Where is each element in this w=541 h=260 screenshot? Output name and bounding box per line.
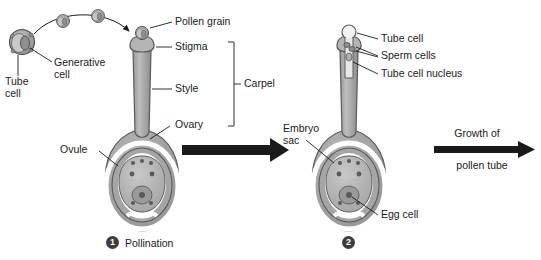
label-tube-cell-nucleus: Tube cell nucleus	[381, 68, 462, 80]
tube-cell-nucleus-2	[346, 53, 352, 61]
carpel-bracket	[228, 42, 234, 126]
style-1	[133, 50, 151, 137]
label-embryo-sac: Embryosac	[283, 123, 319, 146]
label-tube-cell-left: Tubecell	[5, 76, 29, 99]
pollen-grain-in-flight-2	[92, 10, 105, 23]
growth-arrow-line2: pollen tube	[436, 160, 528, 172]
growth-arrow	[434, 141, 535, 158]
pollen-grain-on-stigma-1	[136, 27, 149, 40]
label-tube-cell: Tube cell	[381, 33, 423, 45]
growth-arrow-line1: Growth of	[436, 128, 518, 140]
sperm-cell-b	[349, 47, 355, 52]
label-carpel: Carpel	[244, 78, 275, 90]
step-badge-1: 1	[106, 236, 119, 249]
step-badge-2: 2	[342, 236, 355, 249]
pollen-grain-free	[10, 30, 35, 55]
label-pollen-grain: Pollen grain	[175, 16, 230, 28]
leader-pollen-grain	[150, 22, 172, 28]
diagram-canvas: Tubecell Generativecell Pollen grain Sti…	[0, 0, 541, 260]
pollination-trajectory-arc	[34, 15, 129, 34]
label-ovary: Ovary	[175, 119, 203, 131]
label-ovule: Ovule	[60, 144, 87, 156]
leader-generative-cell	[30, 48, 52, 62]
label-style: Style	[175, 83, 198, 95]
sperm-cell-a	[344, 43, 350, 48]
pollen-grain-germinated	[342, 25, 356, 39]
carpel-stage-1	[105, 27, 178, 232]
pollen-grain-in-flight-1	[57, 15, 70, 28]
label-sperm-cells: Sperm cells	[381, 50, 436, 62]
leader-tube-cell	[357, 33, 378, 39]
label-stigma: Stigma	[175, 41, 208, 53]
label-egg-cell: Egg cell	[381, 209, 418, 221]
transition-arrow	[182, 138, 289, 162]
label-generative-cell: Generativecell	[54, 57, 105, 80]
step-caption-1: Pollination	[125, 237, 173, 249]
